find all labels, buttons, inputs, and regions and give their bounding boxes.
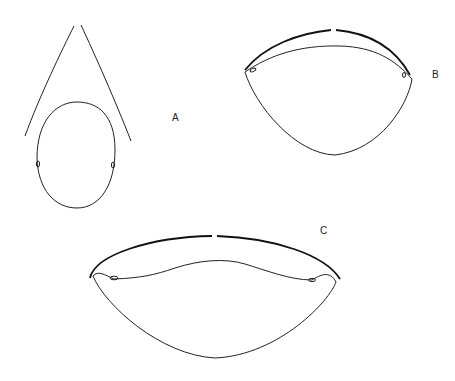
label-a: A [172,112,179,123]
figure-c-arc-left [90,236,212,278]
figure-a-right-eye [111,162,114,168]
figure-b [245,30,412,155]
figure-c-body [93,261,336,358]
figure-a-oval [37,102,115,208]
figure-b-arc-right [336,30,410,75]
figure-c [90,236,340,358]
figure-a-right-line [81,25,131,141]
diagram-canvas [0,0,455,381]
label-b: B [432,69,439,80]
figure-a [25,25,131,208]
figure-b-right-eye [403,73,406,78]
figure-c-arc-right [217,236,340,279]
figure-b-body [245,46,412,155]
label-c: C [320,225,327,236]
figure-a-left-line [25,26,74,136]
